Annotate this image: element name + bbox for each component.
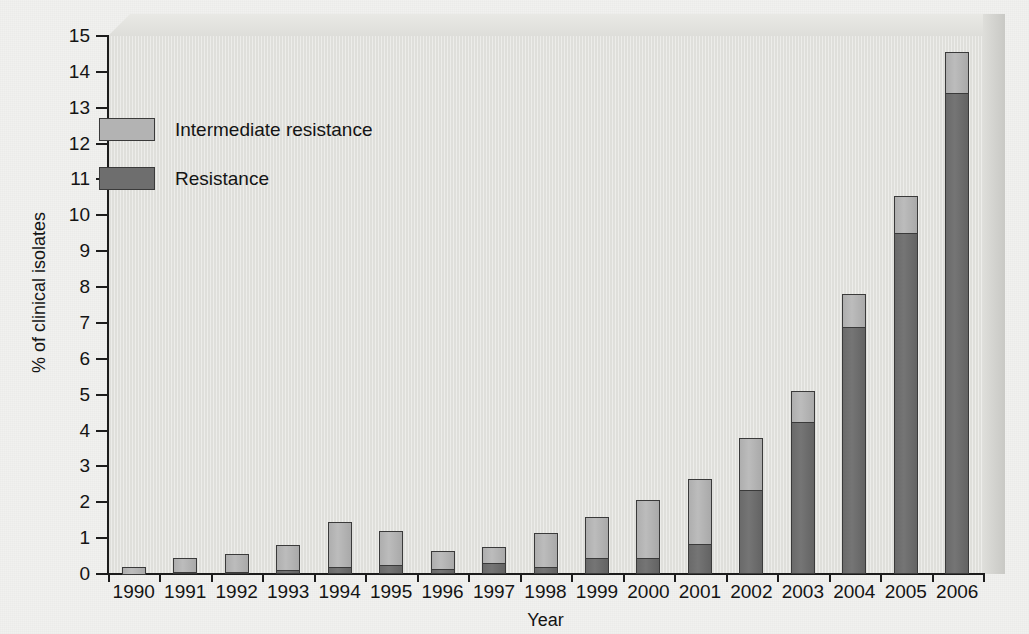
x-axis-tick — [108, 575, 110, 582]
legend-swatch-resistance — [99, 167, 155, 190]
y-axis-tick-label: 15 — [40, 26, 90, 45]
x-axis-tick — [211, 575, 213, 582]
x-axis-tick-label: 1996 — [417, 582, 468, 601]
x-axis-tick — [262, 575, 264, 582]
bar-2001[interactable] — [688, 479, 712, 574]
x-axis-tick — [932, 575, 934, 582]
bar-segment-intermediate-resistance — [842, 294, 866, 327]
bar-1990[interactable] — [122, 567, 146, 574]
bar-segment-resistance — [173, 572, 197, 574]
bar-segment-intermediate-resistance — [688, 479, 712, 545]
y-axis-tick — [96, 250, 107, 252]
bar-2005[interactable] — [894, 196, 918, 574]
bar-segment-intermediate-resistance — [482, 547, 506, 564]
bar-1999[interactable] — [585, 517, 609, 574]
bar-1993[interactable] — [276, 545, 300, 574]
x-axis-tick-label: 1990 — [108, 582, 159, 601]
x-axis-tick-label: 2006 — [932, 582, 983, 601]
x-axis-tick — [674, 575, 676, 582]
y-axis-tick — [96, 394, 107, 396]
legend-label-intermediate-resistance: Intermediate resistance — [175, 120, 373, 139]
chart-legend: Intermediate resistance Resistance — [99, 118, 373, 216]
bar-1998[interactable] — [534, 533, 558, 574]
y-axis-tick — [96, 537, 107, 539]
bar-segment-intermediate-resistance — [739, 438, 763, 491]
legend-swatch-intermediate-resistance — [99, 118, 155, 141]
x-axis-tick-label: 1991 — [159, 582, 210, 601]
stacked-bar-chart: 0123456789101112131415 19901991199219931… — [0, 0, 1029, 634]
y-axis-tick — [96, 71, 107, 73]
x-axis-tick-label: 1998 — [520, 582, 571, 601]
bar-1997[interactable] — [482, 547, 506, 574]
bar-1995[interactable] — [379, 531, 403, 574]
bar-2003[interactable] — [791, 391, 815, 574]
bar-segment-intermediate-resistance — [276, 545, 300, 571]
bar-segment-resistance — [482, 563, 506, 574]
legend-label-resistance: Resistance — [175, 169, 269, 188]
bar-segment-intermediate-resistance — [945, 52, 969, 94]
bar-2004[interactable] — [842, 294, 866, 574]
x-axis-tick — [314, 575, 316, 582]
x-axis-tick-label: 1994 — [314, 582, 365, 601]
y-axis-tick — [96, 322, 107, 324]
y-axis-tick — [96, 430, 107, 432]
bar-2002[interactable] — [739, 438, 763, 574]
y-axis-title: % of clinical isolates — [29, 133, 50, 453]
bar-2000[interactable] — [636, 500, 660, 574]
x-axis-tick-label: 1995 — [365, 582, 416, 601]
bar-segment-resistance — [688, 544, 712, 574]
plot-area-3d-right-bevel — [983, 14, 1005, 574]
y-axis-tick — [96, 501, 107, 503]
x-axis-tick-label: 1997 — [468, 582, 519, 601]
bar-segment-intermediate-resistance — [328, 522, 352, 568]
bar-segment-resistance — [328, 567, 352, 574]
x-axis-tick-label: 1999 — [571, 582, 622, 601]
bar-2006[interactable] — [945, 52, 969, 574]
x-axis-tick — [365, 575, 367, 582]
y-axis-tick-label: 1 — [40, 528, 90, 547]
bar-segment-resistance — [276, 570, 300, 574]
y-axis-tick-label: 14 — [40, 62, 90, 81]
y-axis-tick-label: 3 — [40, 456, 90, 475]
bar-1994[interactable] — [328, 522, 352, 574]
x-axis-tick — [880, 575, 882, 582]
x-axis-tick-label: 2004 — [829, 582, 880, 601]
plot-area-3d-top-bevel — [108, 14, 1005, 36]
bar-1991[interactable] — [173, 558, 197, 574]
bar-segment-resistance — [791, 422, 815, 574]
bar-1992[interactable] — [225, 554, 249, 574]
y-axis-tick-label: 13 — [40, 98, 90, 117]
bar-segment-resistance — [585, 558, 609, 574]
bar-segment-intermediate-resistance — [122, 567, 146, 575]
bar-segment-resistance — [379, 565, 403, 574]
bar-segment-resistance — [894, 233, 918, 574]
x-axis-tick — [983, 575, 985, 582]
bar-segment-intermediate-resistance — [431, 551, 455, 570]
bar-segment-intermediate-resistance — [585, 517, 609, 559]
bar-1996[interactable] — [431, 551, 455, 574]
x-axis-tick — [726, 575, 728, 582]
bar-segment-intermediate-resistance — [225, 554, 249, 573]
x-axis-tick — [623, 575, 625, 582]
bar-segment-resistance — [842, 327, 866, 574]
bar-segment-resistance — [636, 558, 660, 574]
bar-segment-resistance — [225, 572, 249, 574]
x-axis-tick — [468, 575, 470, 582]
y-axis-tick — [96, 286, 107, 288]
x-axis-tick-label: 2005 — [880, 582, 931, 601]
x-axis-tick — [829, 575, 831, 582]
x-axis-tick-label: 1993 — [262, 582, 313, 601]
x-axis-tick — [520, 575, 522, 582]
bar-segment-resistance — [431, 569, 455, 574]
bar-segment-resistance — [739, 490, 763, 574]
y-axis-tick-label: 0 — [40, 564, 90, 583]
bar-segment-resistance — [534, 567, 558, 574]
x-axis-tick-label: 1992 — [211, 582, 262, 601]
y-axis-tick — [96, 465, 107, 467]
bar-segment-resistance — [945, 93, 969, 574]
x-axis-tick-label: 2000 — [623, 582, 674, 601]
x-axis-title: Year — [108, 610, 983, 631]
x-axis-tick — [571, 575, 573, 582]
y-axis-line — [107, 35, 109, 575]
y-axis-tick — [96, 358, 107, 360]
